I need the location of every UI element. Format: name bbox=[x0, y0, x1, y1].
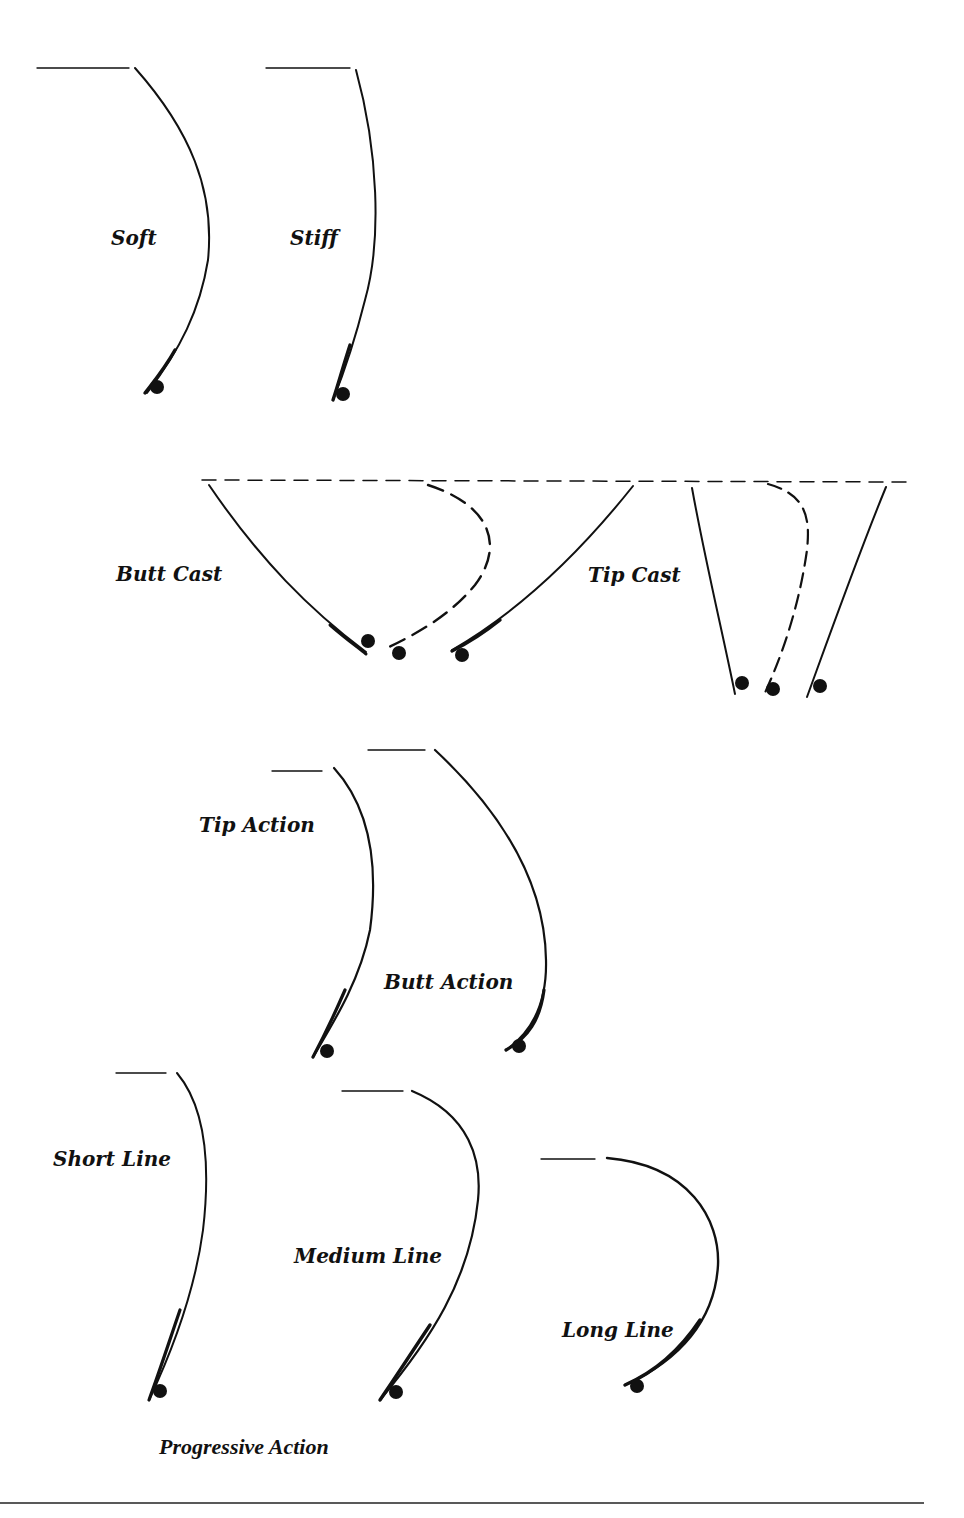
label-long-line: Long Line bbox=[562, 1318, 674, 1342]
label-tip-cast: Tip Cast bbox=[588, 563, 681, 587]
label-soft: Soft bbox=[111, 226, 157, 250]
tip-cast-rods bbox=[692, 484, 886, 697]
butt-cast-rods bbox=[209, 485, 633, 654]
label-butt-action: Butt Action bbox=[384, 970, 513, 994]
tip-action-rod bbox=[272, 768, 373, 1057]
label-stiff: Stiff bbox=[290, 226, 338, 250]
caption-progressive-action: Progressive Action bbox=[159, 1434, 329, 1460]
short-line-rod bbox=[116, 1073, 206, 1400]
label-tip-action: Tip Action bbox=[199, 813, 315, 837]
label-butt-cast: Butt Cast bbox=[116, 562, 222, 586]
long-line-rod bbox=[541, 1158, 718, 1385]
label-short-line: Short Line bbox=[53, 1147, 171, 1171]
baseline-dashed bbox=[202, 480, 908, 482]
butt-action-rod bbox=[368, 750, 546, 1050]
label-medium-line: Medium Line bbox=[294, 1244, 442, 1268]
